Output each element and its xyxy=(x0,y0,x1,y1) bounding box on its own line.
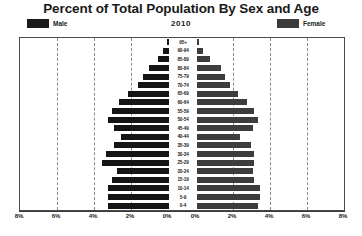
pyramid-row: 90-94 xyxy=(20,47,344,56)
male-bar-cell xyxy=(20,98,169,107)
age-group-label: 95+ xyxy=(169,38,197,47)
male-bar-cell xyxy=(20,184,169,193)
age-group-label: 50-54 xyxy=(169,115,197,124)
female-bar-cell xyxy=(197,158,346,167)
x-axis-tick-label: 4% xyxy=(265,213,274,219)
female-bar-cell xyxy=(197,193,346,202)
pyramid-row: 70-74 xyxy=(20,81,344,90)
x-axis-tick-label: 0% xyxy=(163,213,172,219)
bar-male xyxy=(119,99,169,105)
bar-male xyxy=(108,194,169,200)
pyramid-row: 0-4 xyxy=(20,201,344,210)
male-bar-cell xyxy=(20,141,169,150)
female-bar-cell xyxy=(197,176,346,185)
bar-female xyxy=(197,151,254,157)
pyramid-row: 65-69 xyxy=(20,90,344,99)
bar-female xyxy=(197,74,225,80)
bar-female xyxy=(197,48,203,54)
age-group-label: 15-19 xyxy=(169,176,197,185)
x-axis-tick-label: 6% xyxy=(52,213,61,219)
pyramid-row: 40-44 xyxy=(20,133,344,142)
pyramid-row: 5-9 xyxy=(20,193,344,202)
bar-female xyxy=(197,125,253,131)
chart-title: Percent of Total Population By Sex and A… xyxy=(0,1,362,16)
age-group-label: 65-69 xyxy=(169,90,197,99)
x-axis-tick-label: 8% xyxy=(339,213,348,219)
legend-label-female: Female xyxy=(303,19,325,28)
bar-female xyxy=(197,99,247,105)
pyramid-row: 25-29 xyxy=(20,158,344,167)
male-bar-cell xyxy=(20,133,169,142)
bar-male xyxy=(128,91,169,97)
bar-male xyxy=(143,74,169,80)
male-bar-cell xyxy=(20,38,169,47)
pyramid-row: 85-89 xyxy=(20,55,344,64)
bar-female xyxy=(197,177,254,183)
age-group-label: 5-9 xyxy=(169,193,197,202)
legend-female: Female xyxy=(277,19,325,28)
pyramid-row: 80-84 xyxy=(20,64,344,73)
bar-male xyxy=(112,108,169,114)
male-bar-cell xyxy=(20,124,169,133)
bar-male xyxy=(117,168,169,174)
female-bar-cell xyxy=(197,98,346,107)
female-bar-cell xyxy=(197,72,346,81)
pyramid-row: 30-34 xyxy=(20,150,344,159)
male-bar-cell xyxy=(20,72,169,81)
female-bar-cell xyxy=(197,201,346,210)
bar-male xyxy=(121,134,169,140)
plot-area: 95+90-9485-8980-8475-7970-7465-6960-6455… xyxy=(19,37,345,211)
female-bar-cell xyxy=(197,184,346,193)
pyramid-row: 50-54 xyxy=(20,115,344,124)
bar-female xyxy=(197,134,240,140)
bar-male xyxy=(158,56,169,62)
bar-male xyxy=(114,125,170,131)
female-bar-cell xyxy=(197,167,346,176)
pyramid-row: 45-49 xyxy=(20,124,344,133)
male-bar-cell xyxy=(20,115,169,124)
male-bar-cell xyxy=(20,107,169,116)
age-group-label: 55-59 xyxy=(169,107,197,116)
age-group-label: 35-39 xyxy=(169,141,197,150)
bar-female xyxy=(197,194,260,200)
bar-male xyxy=(149,65,169,71)
pyramid-row: 95+ xyxy=(20,38,344,47)
age-group-label: 85-89 xyxy=(169,55,197,64)
bar-female xyxy=(197,56,210,62)
male-bar-cell xyxy=(20,176,169,185)
age-group-label: 60-64 xyxy=(169,98,197,107)
male-bar-cell xyxy=(20,64,169,73)
bar-male xyxy=(114,142,170,148)
pyramid-row: 55-59 xyxy=(20,107,344,116)
bar-male xyxy=(112,177,169,183)
male-bar-cell xyxy=(20,167,169,176)
x-axis-tick-label: 2% xyxy=(228,213,237,219)
female-bar-cell xyxy=(197,133,346,142)
male-bar-cell xyxy=(20,193,169,202)
female-bar-cell xyxy=(197,38,346,47)
female-bar-cell xyxy=(197,150,346,159)
age-group-label: 40-44 xyxy=(169,133,197,142)
bar-female xyxy=(197,82,230,88)
bar-female xyxy=(197,39,199,45)
x-axis-tick-label: 0% xyxy=(191,213,200,219)
x-axis-tick-label: 8% xyxy=(15,213,24,219)
male-bar-cell xyxy=(20,47,169,56)
female-bar-cell xyxy=(197,64,346,73)
female-bar-cell xyxy=(197,124,346,133)
bar-female xyxy=(197,185,260,191)
bar-male xyxy=(102,160,169,166)
age-group-label: 0-4 xyxy=(169,201,197,210)
male-bar-cell xyxy=(20,55,169,64)
age-group-label: 10-14 xyxy=(169,184,197,193)
female-bar-cell xyxy=(197,55,346,64)
bar-female xyxy=(197,142,251,148)
male-bar-cell xyxy=(20,81,169,90)
male-bar-cell xyxy=(20,90,169,99)
bar-male xyxy=(108,185,169,191)
age-group-label: 90-94 xyxy=(169,47,197,56)
female-bar-cell xyxy=(197,81,346,90)
bar-rows: 95+90-9485-8980-8475-7970-7465-6960-6455… xyxy=(20,38,344,210)
female-bar-cell xyxy=(197,107,346,116)
pyramid-row: 10-14 xyxy=(20,184,344,193)
